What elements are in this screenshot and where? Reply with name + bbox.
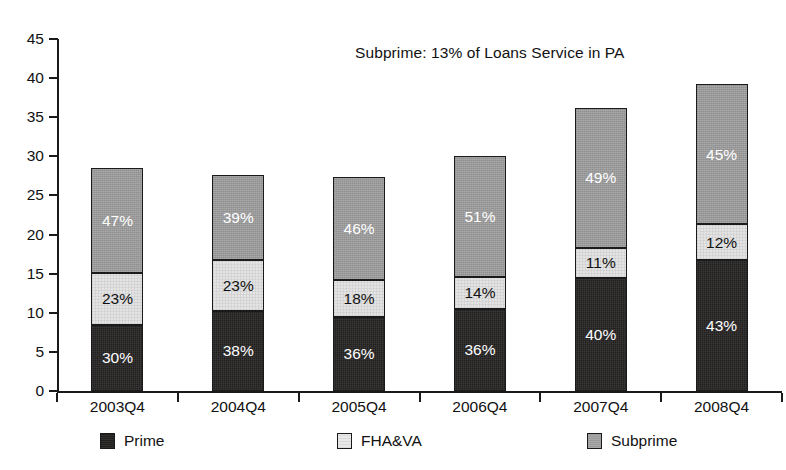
bar-segment-fhava: 23% [212,260,264,311]
x-axis-tick [660,393,662,402]
y-axis-tick [49,351,58,353]
bar-segment-fhava: 23% [91,273,143,325]
y-axis-tick-label: 5 [0,343,44,361]
segment-value-label: 12% [706,235,737,251]
y-axis-tick [49,38,58,40]
bar-segment-fhava: 11% [575,248,627,279]
bar-segment-prime: 36% [454,309,506,391]
bar-segment-fhava: 12% [696,224,748,260]
bar-segment-prime: 43% [696,260,748,391]
segment-value-label: 38% [223,343,254,359]
x-axis-label-2006Q4: 2006Q4 [430,398,530,416]
segment-value-label: 36% [344,346,375,362]
legend-label: Prime [124,432,164,450]
x-axis-label-2003Q4: 2003Q4 [67,398,167,416]
legend-swatch-subprime-icon [587,433,602,449]
bar-2006Q4: 36%14%51% [454,156,506,391]
segment-value-label: 11% [586,255,616,271]
segment-value-label: 45% [706,147,737,163]
y-axis-tick-label: 45 [0,30,44,48]
bar-2005Q4: 36%18%46% [333,177,385,391]
y-axis-tick [49,155,58,157]
y-axis-tick [49,312,58,314]
segment-value-label: 36% [464,342,495,358]
segment-value-label: 30% [102,350,133,366]
legend-item-subprime[interactable]: Subprime [587,430,677,452]
bar-segment-subprime: 39% [212,175,264,260]
x-axis-label-2005Q4: 2005Q4 [309,398,409,416]
bar-2004Q4: 38%23%39% [212,175,264,391]
y-axis-tick-label: 30 [0,147,44,165]
bar-segment-fhava: 18% [333,280,385,318]
y-axis-tick [49,234,58,236]
segment-value-label: 51% [464,209,495,225]
chart-annotation: Subprime: 13% of Loans Service in PA [355,44,625,62]
legend-label: Subprime [611,432,677,450]
x-axis-tick [781,393,783,402]
y-axis-tick-label: 15 [0,265,44,283]
bar-2008Q4: 43%12%45% [696,84,748,391]
y-axis-tick-label: 10 [0,304,44,322]
x-axis-tick [56,393,58,402]
y-axis-tick-label: 35 [0,108,44,126]
y-axis-tick [49,390,58,392]
segment-value-label: 23% [223,278,254,294]
bar-2003Q4: 30%23%47% [91,168,143,391]
x-axis-label-2007Q4: 2007Q4 [551,398,651,416]
stacked-bar-chart: Subprime: 13% of Loans Service in PA 051… [0,0,786,470]
bar-segment-subprime: 46% [333,177,385,280]
bar-2007Q4: 40%11%49% [575,108,627,391]
bar-segment-prime: 36% [333,317,385,391]
segment-value-label: 23% [102,291,133,307]
x-axis-tick [419,393,421,402]
x-axis-tick [298,393,300,402]
legend-item-prime[interactable]: Prime [100,430,164,452]
x-axis-tick [177,393,179,402]
y-axis-tick [49,273,58,275]
bar-segment-subprime: 51% [454,156,506,276]
x-axis-label-2004Q4: 2004Q4 [188,398,288,416]
chart-legend: PrimeFHA&VASubprime [0,430,786,458]
segment-value-label: 40% [585,327,616,343]
segment-value-label: 14% [464,285,495,301]
bar-segment-subprime: 47% [91,168,143,273]
segment-value-label: 47% [102,213,133,229]
y-axis-tick-label: 25 [0,186,44,204]
bar-segment-fhava: 14% [454,277,506,309]
segment-value-label: 39% [223,210,254,226]
y-axis-tick-label: 40 [0,69,44,87]
segment-value-label: 43% [706,318,737,334]
segment-value-label: 49% [585,170,616,186]
x-axis-tick [539,393,541,402]
segment-value-label: 46% [344,221,375,237]
bar-segment-prime: 30% [91,325,143,391]
bar-segment-prime: 38% [212,311,264,391]
legend-swatch-prime-icon [100,433,115,449]
legend-item-fhava[interactable]: FHA&VA [337,430,422,452]
y-axis-tick [49,116,58,118]
y-axis-tick [49,194,58,196]
bar-segment-prime: 40% [575,278,627,391]
y-axis-line [57,39,59,393]
segment-value-label: 18% [344,291,375,307]
bar-segment-subprime: 49% [575,108,627,248]
y-axis-tick [49,77,58,79]
legend-label: FHA&VA [361,432,422,450]
y-axis-tick-label: 0 [0,382,44,400]
x-axis-label-2008Q4: 2008Q4 [672,398,772,416]
legend-swatch-fhava-icon [337,433,352,449]
bar-segment-subprime: 45% [696,84,748,224]
y-axis-tick-label: 20 [0,226,44,244]
